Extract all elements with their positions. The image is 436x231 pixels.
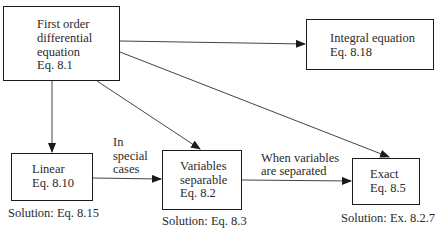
- node-variables-line1: Variables: [180, 160, 227, 174]
- node-first-order-line4: Eq. 8.1: [37, 59, 73, 73]
- node-integral-line2: Eq. 8.18: [330, 46, 372, 60]
- node-first-order-line2: differential: [37, 32, 92, 46]
- node-first-order-line1: First order: [37, 18, 89, 32]
- node-exact-line2: Eq. 8.5: [370, 182, 406, 196]
- edge-first-to-integral: [120, 41, 305, 44]
- node-integral-line1: Integral equation: [330, 32, 415, 46]
- edge-label-when-separated-line2: are separated: [261, 165, 327, 179]
- node-variables-line3: Eq. 8.2: [180, 187, 216, 201]
- node-linear-line2: Eq. 8.10: [32, 177, 74, 191]
- edge-linear-to-variables: [93, 178, 161, 179]
- edge-variables-to-exact: [242, 180, 351, 181]
- node-exact-line1: Exact: [370, 168, 398, 182]
- node-variables-solution: Solution: Eq. 8.3: [162, 215, 247, 229]
- edge-label-special-cases-line3: cases: [113, 163, 139, 177]
- edge-label-special-cases-line1: In: [113, 136, 123, 150]
- node-linear-solution: Solution: Eq. 8.15: [8, 207, 99, 221]
- node-exact-solution: Solution: Ex. 8.2.7: [341, 212, 435, 226]
- node-linear-line1: Linear: [32, 163, 65, 177]
